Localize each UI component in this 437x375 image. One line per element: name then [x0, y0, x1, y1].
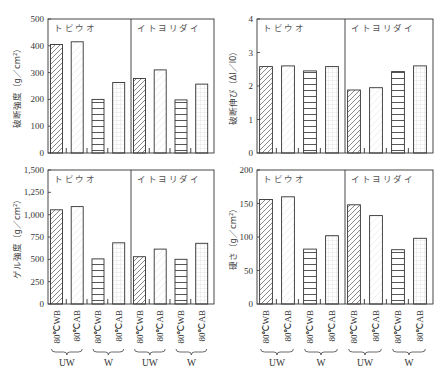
bar: [282, 197, 295, 304]
bar: [51, 210, 63, 304]
x-category-label: 80℃AB: [327, 310, 337, 342]
group-label: UW: [142, 358, 158, 368]
group-brace: [93, 349, 124, 355]
y-axis-label: 硬さ（g／cm²）: [228, 204, 238, 271]
group-label: W: [317, 358, 326, 368]
gel-strength-panel: トビウオイトヨリダイ02505007501,0001,2501,500ゲル強度（…: [12, 165, 214, 368]
bar: [134, 257, 146, 304]
y-tick-label: 250: [31, 277, 45, 287]
y-tick-label: 400: [31, 41, 45, 51]
bar: [71, 42, 83, 153]
bar: [71, 207, 83, 304]
group-label: W: [405, 358, 414, 368]
bar: [196, 84, 208, 153]
bar: [326, 67, 339, 153]
y-tick-label: 150: [240, 199, 254, 209]
bar: [113, 83, 125, 154]
bar: [414, 238, 427, 304]
bar: [304, 249, 317, 304]
x-category-label: 80℃WB: [93, 310, 103, 344]
bar: [260, 200, 273, 305]
hardness-panel: トビウオイトヨリダイ050100150200硬さ（g／cm²）80℃WB80℃A…: [228, 165, 433, 368]
bar: [154, 70, 166, 153]
species-label: トビウオ: [263, 174, 305, 184]
species-label: イトヨリダイ: [137, 174, 200, 184]
y-tick-label: 500: [31, 14, 45, 24]
bar: [175, 100, 187, 153]
breaking-elongation-panel: トビウオイトヨリダイ01234破断伸び（Δl／l0）: [228, 14, 433, 158]
bar: [370, 216, 383, 304]
x-category-label: 80℃WB: [393, 310, 403, 344]
bar: [370, 88, 383, 153]
group-label: W: [104, 358, 113, 368]
y-tick-label: 1: [249, 115, 254, 125]
y-axis-label: ゲル強度（g／cm²）: [12, 195, 22, 280]
y-tick-label: 300: [31, 68, 45, 78]
x-category-label: 80℃WB: [349, 310, 359, 344]
y-tick-label: 1,000: [24, 210, 45, 220]
species-label: イトヨリダイ: [351, 23, 414, 33]
y-tick-label: 500: [31, 254, 45, 264]
bar: [154, 249, 166, 304]
y-tick-label: 1,250: [24, 187, 45, 197]
y-tick-label: 50: [244, 266, 254, 276]
y-tick-label: 4: [249, 14, 254, 24]
y-tick-label: 0: [40, 148, 45, 158]
bar: [51, 45, 63, 154]
x-category-label: 80℃AB: [415, 310, 425, 342]
group-brace: [261, 349, 294, 355]
bar: [348, 205, 361, 304]
bar: [392, 72, 405, 153]
bar: [92, 259, 104, 304]
bar: [414, 66, 427, 153]
x-category-label: 80℃AB: [283, 310, 293, 342]
y-tick-label: 200: [31, 94, 45, 104]
bar: [113, 243, 125, 304]
x-category-label: 80℃WB: [135, 310, 145, 344]
bar: [260, 67, 273, 153]
y-tick-label: 200: [240, 165, 254, 175]
bar: [175, 259, 187, 304]
y-axis-label: 破断強度（g／cm²）: [12, 44, 22, 129]
y-tick-label: 0: [249, 299, 254, 309]
species-label: トビウオ: [54, 174, 96, 184]
y-tick-label: 0: [249, 148, 254, 158]
x-category-label: 80℃AB: [72, 310, 82, 342]
group-brace: [134, 349, 165, 355]
group-brace: [393, 349, 426, 355]
bar: [92, 99, 104, 153]
species-label: トビウオ: [263, 23, 305, 33]
x-category-label: 80℃WB: [176, 310, 186, 344]
species-label: イトヨリダイ: [137, 23, 200, 33]
y-tick-label: 3: [249, 48, 254, 58]
x-category-label: 80℃WB: [52, 310, 62, 344]
bar: [304, 71, 317, 153]
bar: [348, 90, 361, 153]
bar: [282, 66, 295, 153]
x-category-label: 80℃AB: [371, 310, 381, 342]
y-tick-label: 100: [31, 121, 45, 131]
group-label: UW: [357, 358, 373, 368]
y-tick-label: 100: [240, 232, 254, 242]
species-label: トビウオ: [54, 23, 96, 33]
y-axis-label: 破断伸び（Δl／l0）: [228, 47, 238, 126]
bar: [326, 236, 339, 304]
x-category-label: 80℃WB: [305, 310, 315, 344]
x-category-label: 80℃AB: [114, 310, 124, 342]
group-brace: [51, 349, 82, 355]
y-tick-label: 0: [40, 299, 45, 309]
species-label: イトヨリダイ: [351, 174, 414, 184]
y-tick-label: 1,500: [24, 165, 45, 175]
x-category-label: 80℃AB: [155, 310, 165, 342]
group-brace: [349, 349, 382, 355]
group-brace: [305, 349, 338, 355]
group-label: UW: [269, 358, 285, 368]
y-tick-label: 2: [249, 81, 254, 91]
bar: [134, 79, 146, 154]
group-label: W: [187, 358, 196, 368]
x-category-label: 80℃WB: [261, 310, 271, 344]
breaking-strength-panel: トビウオイトヨリダイ0100200300400500破断強度（g／cm²）: [12, 14, 214, 158]
y-tick-label: 750: [31, 232, 45, 242]
x-category-label: 80℃AB: [197, 310, 207, 342]
group-brace: [176, 349, 207, 355]
